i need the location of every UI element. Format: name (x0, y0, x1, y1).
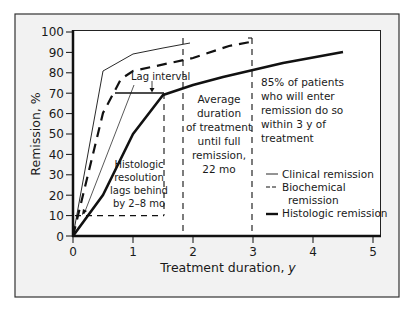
svg-text:85% of patients: 85% of patients (261, 76, 344, 88)
x-tick-label: 1 (129, 245, 137, 259)
svg-text:by 2–8 mo: by 2–8 mo (113, 198, 165, 209)
svg-text:remission do so: remission do so (261, 104, 343, 116)
x-tick-label: 3 (249, 245, 257, 259)
y-tick-label: 70 (49, 87, 64, 101)
x-tick-label: 0 (69, 245, 77, 259)
legend-histologic-label: Histologic remission (282, 207, 388, 219)
y-tick-label: 80 (49, 66, 64, 80)
y-axis-label: Remission, % (28, 92, 43, 175)
x-tick-label: 4 (309, 245, 317, 259)
svg-text:duration: duration (197, 107, 241, 119)
svg-text:until full: until full (198, 135, 241, 147)
legend-clinical-label: Clinical remission (282, 168, 374, 180)
svg-text:Average: Average (197, 93, 240, 105)
legend-biochemical-label-2: remission (288, 194, 339, 206)
x-tick-label: 5 (369, 245, 377, 259)
legend-biochemical-label: Biochemical (282, 181, 346, 193)
svg-text:treatment: treatment (261, 132, 314, 144)
y-tick-label: 90 (49, 46, 64, 60)
x-tick-label: 2 (189, 245, 197, 259)
y-tick-label: 0 (56, 230, 64, 244)
svg-text:of treatment: of treatment (186, 121, 252, 133)
y-tick-label: 60 (49, 107, 64, 121)
svg-text:22 mo: 22 mo (202, 163, 235, 175)
svg-text:lags behind: lags behind (110, 185, 168, 196)
svg-text:Histologic: Histologic (114, 159, 163, 170)
y-tick-label: 50 (49, 127, 64, 141)
y-tick-label: 20 (49, 189, 64, 203)
y-tick-label: 40 (49, 148, 64, 162)
svg-text:remission,: remission, (192, 149, 246, 161)
svg-text:resolution: resolution (114, 172, 164, 183)
svg-text:within 3 y of: within 3 y of (261, 118, 326, 130)
remission-chart: 0 10 20 30 40 50 60 70 80 90 100 0 1 2 3… (0, 0, 412, 315)
x-axis-label: Treatment duration, y (159, 260, 296, 275)
lag-interval-label: Lag interval (131, 71, 190, 82)
y-tick-label: 30 (49, 168, 64, 182)
y-tick-label: 10 (49, 209, 64, 223)
y-tick-label: 100 (41, 25, 64, 39)
svg-text:who will enter: who will enter (261, 90, 335, 102)
